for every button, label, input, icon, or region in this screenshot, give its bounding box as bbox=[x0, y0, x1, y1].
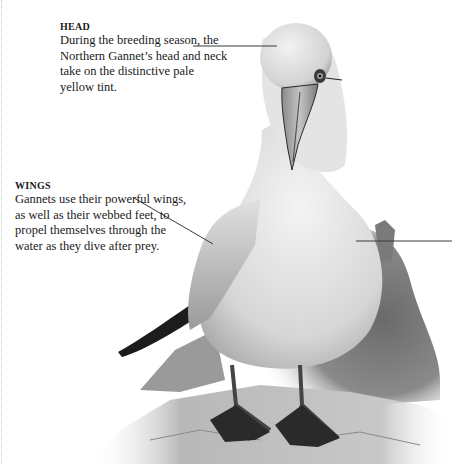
callout-head-body: During the breeding season, the Northern… bbox=[60, 33, 230, 95]
callout-wings-label: WINGS bbox=[15, 180, 195, 192]
callout-wings: WINGS Gannets use their powerful wings, … bbox=[15, 180, 195, 254]
callout-wings-body: Gannets use their powerful wings, as wel… bbox=[15, 192, 195, 254]
callout-head-label: HEAD bbox=[60, 21, 230, 33]
callout-head: HEAD During the breeding season, the Nor… bbox=[60, 21, 230, 95]
